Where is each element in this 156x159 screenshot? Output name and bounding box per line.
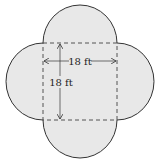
quatrefoil-shape [6, 5, 154, 158]
height-label: 18 ft [49, 77, 73, 88]
quatrefoil-diagram: 18 ft 18 ft [0, 0, 156, 159]
width-label: 18 ft [68, 56, 92, 67]
